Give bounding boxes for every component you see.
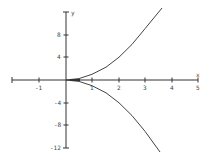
plot-area: y x -1 1 2 3 4 5 8 4 -4 -8 -12 xyxy=(0,0,214,160)
x-tick-label: 3 xyxy=(143,84,147,91)
x-tick-label: 5 xyxy=(196,84,200,91)
y-axis-label: y xyxy=(71,9,75,17)
y-tick-label: -4 xyxy=(54,99,62,106)
x-axis-label: x xyxy=(196,71,200,78)
x-tick-label: 2 xyxy=(117,84,121,91)
y-tick-label: 8 xyxy=(57,31,61,38)
y-tick-label: -8 xyxy=(54,121,62,128)
x-axis xyxy=(12,77,198,83)
upper-curve xyxy=(66,8,162,80)
y-tick-label: 4 xyxy=(57,53,61,60)
y-tick-label: -12 xyxy=(50,144,61,151)
x-tick-label: -1 xyxy=(35,84,43,91)
x-tick-label: 4 xyxy=(170,84,174,91)
x-tick-label: 1 xyxy=(90,84,94,91)
